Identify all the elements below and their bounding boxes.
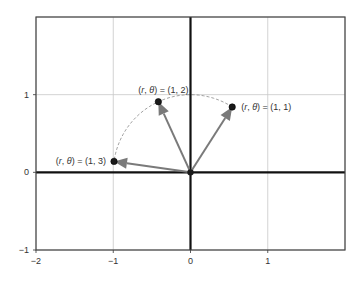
y-tick-label: −1 — [19, 245, 29, 255]
origin-point — [187, 169, 193, 175]
axes-lines — [36, 17, 345, 250]
unit-circle-arc — [114, 95, 232, 162]
data-point — [155, 99, 161, 105]
x-tick-label: 1 — [265, 256, 270, 266]
unit-circle-arc-layer — [114, 95, 232, 162]
x-tick-label: −2 — [31, 256, 41, 266]
polar-coordinates-chart: (r, θ) = (1, 1)(r, θ) = (1, 2)(r, θ) = (… — [0, 0, 363, 282]
x-tick-label: −1 — [108, 256, 118, 266]
vectors — [114, 102, 232, 173]
point-label: (r, θ) = (1, 3) — [56, 156, 106, 166]
vector-shaft — [164, 114, 191, 173]
x-tick-label: 0 — [188, 256, 193, 266]
y-tick-label: 0 — [24, 167, 29, 177]
y-tick-label: 1 — [24, 90, 29, 100]
point-label: (r, θ) = (1, 2) — [138, 85, 188, 95]
vector-shaft — [191, 118, 226, 172]
vector-shaft — [127, 163, 191, 172]
annotations: (r, θ) = (1, 1)(r, θ) = (1, 2)(r, θ) = (… — [56, 85, 292, 167]
point-label: (r, θ) = (1, 1) — [241, 102, 291, 112]
tick-labels: −2−101−101 — [19, 90, 271, 266]
data-point — [229, 104, 235, 110]
data-point — [111, 158, 117, 164]
